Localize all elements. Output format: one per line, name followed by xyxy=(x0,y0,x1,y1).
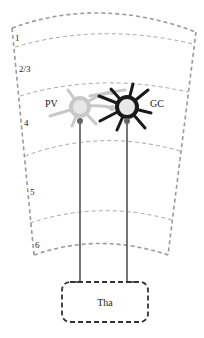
layer-label-1: 1 xyxy=(15,33,20,43)
layer-boundaries xyxy=(15,34,193,223)
layer-label-5: 5 xyxy=(30,187,35,197)
layer-label-6: 6 xyxy=(35,240,40,250)
cortex-diagram: 1 2/3 4 5 6 xyxy=(0,0,204,338)
thalamus-label: Tha xyxy=(97,297,113,308)
thalamocortical-axons xyxy=(74,120,134,282)
pv-neuron xyxy=(50,89,125,126)
gc-label: GC xyxy=(150,98,164,109)
pv-label: PV xyxy=(45,98,59,109)
layer-label-4: 4 xyxy=(24,118,29,128)
layer-boundary-bottom xyxy=(34,244,168,256)
layer-label-2-3: 2/3 xyxy=(19,64,31,74)
